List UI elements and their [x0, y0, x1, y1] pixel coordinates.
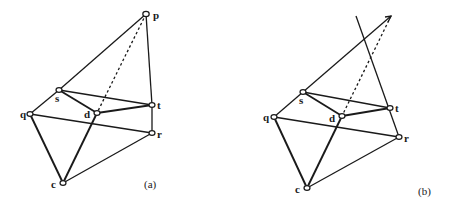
node-t: [387, 106, 393, 111]
node-p: [143, 11, 149, 16]
caption-b: (b): [418, 185, 431, 198]
node-q: [27, 112, 33, 117]
diagram-canvas: p s t d q r c (a) s t d q r c: [0, 0, 450, 208]
label-q: q: [20, 108, 27, 120]
label-c: c: [51, 178, 56, 190]
node-r: [149, 131, 155, 136]
edge-q-c: [274, 117, 307, 188]
label-s: s: [55, 92, 60, 104]
edge-s-ray: [303, 16, 391, 92]
node-d: [94, 111, 100, 116]
panel-b: s t d q r c (b): [263, 16, 431, 198]
edge-d-c: [63, 113, 97, 183]
node-t: [149, 103, 155, 108]
edge-p-d-dotted: [97, 14, 146, 113]
label-t: t: [157, 99, 161, 111]
caption-a: (a): [144, 178, 157, 191]
label-r: r: [157, 128, 162, 140]
edge-ray-t-r: [356, 16, 399, 137]
node-c: [304, 186, 310, 191]
edge-r-c: [307, 137, 399, 188]
edge-p-t: [146, 14, 152, 105]
node-r: [396, 135, 402, 140]
edge-q-c: [30, 114, 63, 183]
edge-d-t: [342, 108, 390, 116]
edge-r-c: [63, 133, 152, 183]
node-d: [339, 114, 345, 119]
edge-p-s: [59, 14, 146, 90]
label-c: c: [295, 183, 300, 195]
label-s: s: [299, 94, 304, 106]
edge-d-c: [307, 116, 342, 188]
label-r: r: [404, 132, 409, 144]
label-q: q: [263, 111, 270, 123]
edge-d-t: [97, 105, 152, 113]
label-t: t: [395, 102, 399, 114]
label-p: p: [153, 9, 159, 21]
label-d: d: [329, 112, 335, 124]
node-c: [60, 181, 66, 186]
node-q: [271, 115, 277, 120]
label-d: d: [84, 108, 90, 120]
panel-a: p s t d q r c (a): [20, 9, 162, 191]
